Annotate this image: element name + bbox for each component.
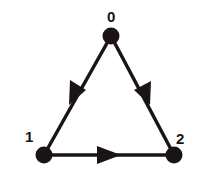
- node-0-label: 0: [107, 8, 115, 25]
- node-2: [166, 147, 183, 164]
- arrowhead-1-to-2-icon: [97, 146, 121, 164]
- arrowheads: [69, 80, 151, 164]
- node-1-label: 1: [25, 128, 33, 145]
- node-1: [36, 147, 53, 164]
- nodes: [36, 28, 183, 164]
- node-0: [103, 28, 120, 45]
- directed-graph-diagram: 0 1 2: [0, 0, 207, 178]
- edges: [44, 36, 174, 155]
- node-2-label: 2: [176, 130, 184, 147]
